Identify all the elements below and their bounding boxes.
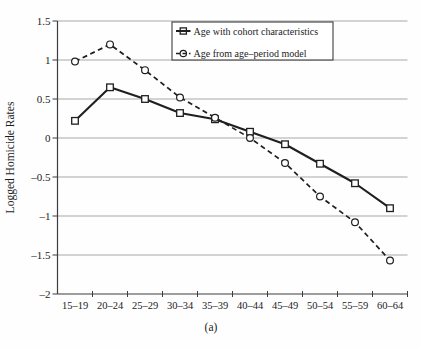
y-axis-title: Logged Homicide Rates xyxy=(4,101,17,213)
data-marker-age-with-cohort-characteristics xyxy=(72,118,79,125)
y-tick-label: 0.5 xyxy=(37,93,51,105)
figure-panel-a: 1.510.50–0.5–1–1.5–215–1920–2425–2930–34… xyxy=(0,0,421,349)
y-tick-label: 0 xyxy=(45,132,51,144)
data-marker-age-with-cohort-characteristics xyxy=(282,141,289,148)
figure-caption: (a) xyxy=(205,321,218,334)
data-marker-age-from-age-period-model xyxy=(247,135,254,142)
data-marker-age-with-cohort-characteristics xyxy=(142,96,149,103)
y-tick-label: –1 xyxy=(39,210,51,222)
x-tick-label: 55–59 xyxy=(342,300,368,311)
data-marker-age-with-cohort-characteristics xyxy=(387,205,394,212)
series-line-age-from-age-period-model xyxy=(75,44,390,260)
x-tick-label: 45–49 xyxy=(272,300,298,311)
y-tick-label: –2 xyxy=(39,288,51,300)
data-marker-age-from-age-period-model xyxy=(107,41,114,48)
data-marker-age-from-age-period-model xyxy=(387,257,394,264)
y-tick-label: 1.5 xyxy=(37,15,51,27)
y-tick-label: –0.5 xyxy=(30,171,51,183)
data-marker-age-from-age-period-model xyxy=(72,58,79,65)
data-marker-age-from-age-period-model xyxy=(212,114,219,121)
x-tick-label: 20–24 xyxy=(97,300,124,311)
legend-label-age-with-cohort-characteristics: Age with cohort characteristics xyxy=(194,26,319,37)
series-line-age-with-cohort-characteristics xyxy=(75,87,390,208)
data-marker-age-with-cohort-characteristics xyxy=(317,160,324,167)
data-marker-age-with-cohort-characteristics xyxy=(107,84,114,91)
y-tick-label: 1 xyxy=(45,54,51,66)
homicide-rates-line-chart: 1.510.50–0.5–1–1.5–215–1920–2425–2930–34… xyxy=(0,0,421,349)
x-tick-label: 25–29 xyxy=(132,300,158,311)
y-tick-label: –1.5 xyxy=(30,249,51,261)
x-tick-label: 15–19 xyxy=(62,300,88,311)
data-marker-age-from-age-period-model xyxy=(352,219,359,226)
data-marker-age-with-cohort-characteristics xyxy=(352,180,359,187)
data-marker-age-from-age-period-model xyxy=(317,193,324,200)
data-marker-age-from-age-period-model xyxy=(282,160,289,167)
x-tick-label: 40–44 xyxy=(237,300,264,311)
legend-label-age-from-age-period-model: Age from age–period model xyxy=(194,48,307,59)
data-marker-age-with-cohort-characteristics xyxy=(177,110,184,117)
x-tick-label: 50–54 xyxy=(307,300,334,311)
x-tick-label: 35–39 xyxy=(202,300,228,311)
data-marker-age-from-age-period-model xyxy=(142,67,149,74)
data-marker-age-from-age-period-model xyxy=(177,94,184,101)
x-tick-label: 30–34 xyxy=(167,300,194,311)
x-tick-label: 60–64 xyxy=(377,300,404,311)
chart-plot-area: 1.510.50–0.5–1–1.5–215–1920–2425–2930–34… xyxy=(30,15,407,311)
